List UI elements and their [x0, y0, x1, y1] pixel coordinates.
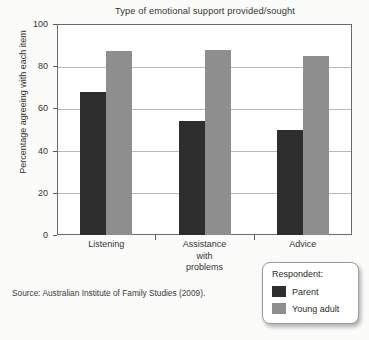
- bars-layer: [57, 24, 352, 235]
- bar-parent-2: [277, 130, 303, 236]
- legend-swatch-young-adult: [272, 303, 286, 314]
- y-tick-label: 0: [22, 230, 48, 240]
- legend-title: Respondent:: [272, 269, 323, 279]
- x-category-label: Advice: [253, 239, 353, 251]
- y-tick-mark: [53, 235, 57, 236]
- legend-item-young-adult: Young adult: [272, 303, 339, 314]
- y-tick-mark: [53, 151, 57, 152]
- x-cat-label-line: Assistance: [155, 239, 255, 251]
- source-note: Source: Australian Institute of Family S…: [12, 288, 205, 298]
- x-cat-label-line: with: [155, 251, 255, 263]
- bar-young-adult-2: [303, 56, 329, 235]
- legend-item-parent: Parent: [272, 286, 319, 297]
- legend-label-parent: Parent: [292, 287, 319, 297]
- x-cat-label-line: Advice: [253, 239, 353, 251]
- legend: Respondent: Parent Young adult: [262, 262, 359, 324]
- chart-title: Type of emotional support provided/sough…: [57, 6, 353, 16]
- y-tick-mark: [53, 24, 57, 25]
- y-tick-label: 60: [22, 103, 48, 113]
- legend-swatch-parent: [272, 286, 286, 297]
- bar-young-adult-1: [205, 50, 231, 235]
- x-cat-label-line: problems: [155, 262, 255, 274]
- y-tick-mark: [53, 193, 57, 194]
- bar-young-adult-0: [106, 51, 132, 235]
- bar-parent-0: [80, 92, 106, 235]
- y-tick-label: 80: [22, 61, 48, 71]
- x-category-label: Listening: [56, 239, 156, 251]
- chart-figure: Type of emotional support provided/sough…: [0, 0, 369, 340]
- bar-parent-1: [179, 121, 205, 235]
- y-tick-mark: [53, 66, 57, 67]
- x-category-label: Assistancewithproblems: [155, 239, 255, 274]
- x-cat-label-line: Listening: [56, 239, 156, 251]
- y-tick-label: 100: [22, 19, 48, 29]
- legend-label-young-adult: Young adult: [292, 304, 339, 314]
- y-tick-mark: [53, 108, 57, 109]
- y-tick-label: 20: [22, 188, 48, 198]
- y-tick-label: 40: [22, 146, 48, 156]
